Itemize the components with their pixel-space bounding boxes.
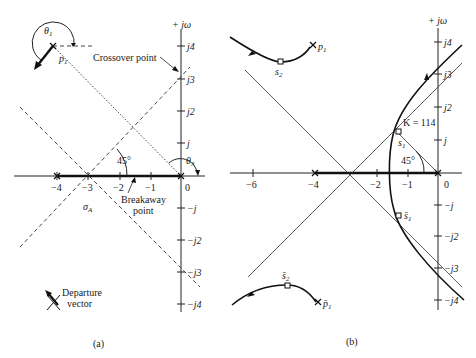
departure-label: vector — [67, 298, 93, 309]
tick-label: −2 — [370, 179, 381, 190]
tick-label: −j — [187, 203, 197, 214]
angle-45-arc-b — [416, 151, 424, 173]
asymptote-b — [245, 70, 462, 287]
panel-a: −4 −3 −2 −1 0 j j2 j3 j4 −j −j2 −j3 −j4 … — [14, 19, 205, 350]
root-locus-branch — [232, 285, 316, 305]
sigma-a-label: σA — [83, 201, 93, 214]
asymptote-a — [20, 107, 200, 287]
crossover-label: Crossover point — [93, 52, 157, 63]
angle-45-label-b: 45° — [401, 155, 415, 166]
gain-label: K = 114 — [403, 117, 436, 128]
theta1-arc — [32, 22, 74, 60]
s2-label: s2 — [275, 66, 283, 79]
departure-vector — [37, 46, 53, 66]
theta1-label: θ1 — [44, 25, 52, 38]
asymptote-b — [248, 63, 462, 277]
tick-label: j2 — [442, 102, 452, 113]
root-locus-branch — [230, 37, 310, 62]
tick-label: −j2 — [444, 231, 459, 242]
tick-label: j3 — [185, 74, 195, 85]
tick-label: 0 — [444, 179, 449, 190]
imag-axis-label-a: + jω — [172, 19, 191, 30]
tick-label: −4 — [308, 179, 319, 190]
root-locus-figure: −4 −3 −2 −1 0 j j2 j3 j4 −j −j2 −j3 −j4 … — [0, 0, 476, 358]
tick-label: j — [185, 138, 190, 149]
caption-a: (a) — [93, 338, 104, 350]
panel-b: −6 −4 −2 −1 0 j j2 j3 j4 −j −j2 −j3 −j4 … — [230, 15, 464, 348]
tick-label: −3 — [82, 182, 93, 193]
arrowhead-icon — [195, 170, 200, 176]
s2bar-label: s̄2 — [282, 270, 290, 283]
arrowhead-icon — [172, 66, 179, 72]
arrowhead-icon — [424, 73, 429, 80]
tick-label: −j4 — [187, 299, 202, 310]
tick-label: j4 — [442, 37, 452, 48]
closed-loop-root — [396, 213, 401, 218]
tick-label: −j2 — [187, 235, 202, 246]
tick-label: j4 — [185, 41, 195, 52]
tick-label: −6 — [246, 179, 257, 190]
tick-label: −j3 — [444, 263, 459, 274]
closed-loop-root — [285, 283, 290, 288]
imag-axis-label-b: + jω — [428, 15, 447, 26]
closed-loop-root — [396, 129, 401, 134]
tick-label: −1 — [402, 179, 413, 190]
tick-label: −1 — [145, 182, 156, 193]
tick-label: −j — [444, 200, 454, 211]
arrowhead-icon — [131, 177, 136, 183]
p1-label-a: p1 — [58, 53, 68, 66]
angle-45-label-a: 45° — [117, 155, 131, 166]
p1-label-b: p1 — [317, 41, 327, 54]
breakaway-label: Breakaway — [121, 194, 166, 205]
tick-label: −j4 — [444, 295, 459, 306]
tick-label: j2 — [185, 106, 195, 117]
departure-legend — [45, 290, 60, 310]
tick-label: −2 — [113, 182, 124, 193]
tick-label: −4 — [51, 182, 62, 193]
s1bar-label: s̄1 — [404, 210, 411, 223]
departure-label: Departure — [62, 287, 103, 298]
tick-label: j — [442, 135, 447, 146]
tick-label: 0 — [185, 182, 190, 193]
asymptote-a — [20, 67, 190, 247]
p1bar-label: p̄1 — [322, 298, 332, 311]
breakaway-label: point — [133, 205, 154, 216]
closed-loop-root — [278, 59, 283, 64]
caption-b: (b) — [346, 336, 358, 348]
theta3-label: θ3 — [186, 155, 195, 168]
